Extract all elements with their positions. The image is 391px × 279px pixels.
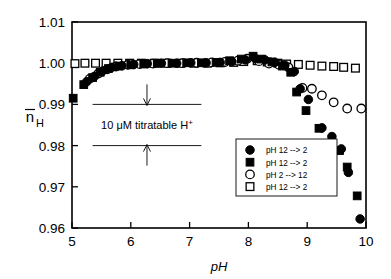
x-tick-label: 6 xyxy=(127,234,135,249)
data-point xyxy=(330,63,338,71)
legend-marker xyxy=(246,158,254,166)
data-point xyxy=(81,59,89,67)
y-tick-label: 0.98 xyxy=(39,139,65,154)
data-point xyxy=(71,60,79,68)
y-tick-label: 1.00 xyxy=(39,56,65,71)
data-point xyxy=(98,67,107,76)
data-point xyxy=(143,59,152,68)
data-point xyxy=(356,215,365,224)
x-tick-label: 9 xyxy=(303,234,311,249)
data-point xyxy=(340,63,348,71)
data-point xyxy=(261,56,270,65)
data-point xyxy=(271,58,280,67)
data-point xyxy=(241,56,250,65)
data-point xyxy=(337,145,346,154)
data-point xyxy=(306,61,314,69)
data-point xyxy=(216,58,225,67)
data-point xyxy=(357,104,366,113)
data-point xyxy=(296,84,305,93)
y-tick-label: 0.97 xyxy=(39,180,65,195)
legend-label: pH 12 --> 2 xyxy=(266,146,308,155)
data-point xyxy=(318,62,326,70)
data-point xyxy=(290,67,299,76)
data-point xyxy=(344,168,353,177)
data-point xyxy=(343,104,352,113)
x-tick-label: 8 xyxy=(245,234,253,249)
data-point xyxy=(129,60,138,69)
legend-label: pH 12 --> 2 xyxy=(266,183,308,192)
y-tick-label: 1.01 xyxy=(39,15,65,30)
data-point xyxy=(352,64,360,72)
ph-titration-scatter-plot: 5678910 1.011.000.990.980.970.96 10 μM t… xyxy=(0,0,391,279)
y-tick-label: 0.99 xyxy=(39,97,65,112)
data-point xyxy=(172,59,181,68)
data-point xyxy=(318,91,327,100)
data-point xyxy=(92,59,100,67)
chart-figure: 5678910 1.011.000.990.980.970.96 10 μM t… xyxy=(0,0,391,279)
data-point xyxy=(281,61,290,70)
data-point xyxy=(318,124,327,133)
chart-legend: pH 12 --> 2pH 12 --> 2pH 2 --> 12pH 12 -… xyxy=(236,139,337,196)
data-point xyxy=(187,59,196,68)
legend-marker xyxy=(246,170,255,179)
data-point xyxy=(353,192,361,200)
annotation-label: 10 μM titratable H+ xyxy=(101,118,193,132)
data-point xyxy=(308,84,317,93)
data-point xyxy=(302,107,310,115)
y-tick-label: 0.96 xyxy=(39,221,65,236)
data-point xyxy=(69,94,77,102)
legend-marker xyxy=(246,146,255,155)
legend-marker xyxy=(246,183,254,191)
y-axis-title-subscript: H xyxy=(36,117,44,129)
data-point xyxy=(118,61,127,70)
data-point xyxy=(82,77,91,86)
legend-label: pH 2 --> 12 xyxy=(266,171,308,180)
data-point xyxy=(329,98,338,107)
data-point xyxy=(228,57,237,66)
x-tick-label: 7 xyxy=(186,234,194,249)
x-axis-title: pH xyxy=(210,259,228,274)
data-point xyxy=(108,63,117,72)
data-point xyxy=(251,54,260,63)
x-tick-label: 5 xyxy=(68,234,76,249)
legend-label: pH 12 --> 2 xyxy=(266,159,308,168)
data-point xyxy=(304,95,313,104)
x-tick-label: 10 xyxy=(358,234,373,249)
data-point xyxy=(90,72,99,81)
y-axis-title-base: n xyxy=(26,108,34,125)
data-point xyxy=(157,59,166,68)
data-point xyxy=(202,59,211,68)
